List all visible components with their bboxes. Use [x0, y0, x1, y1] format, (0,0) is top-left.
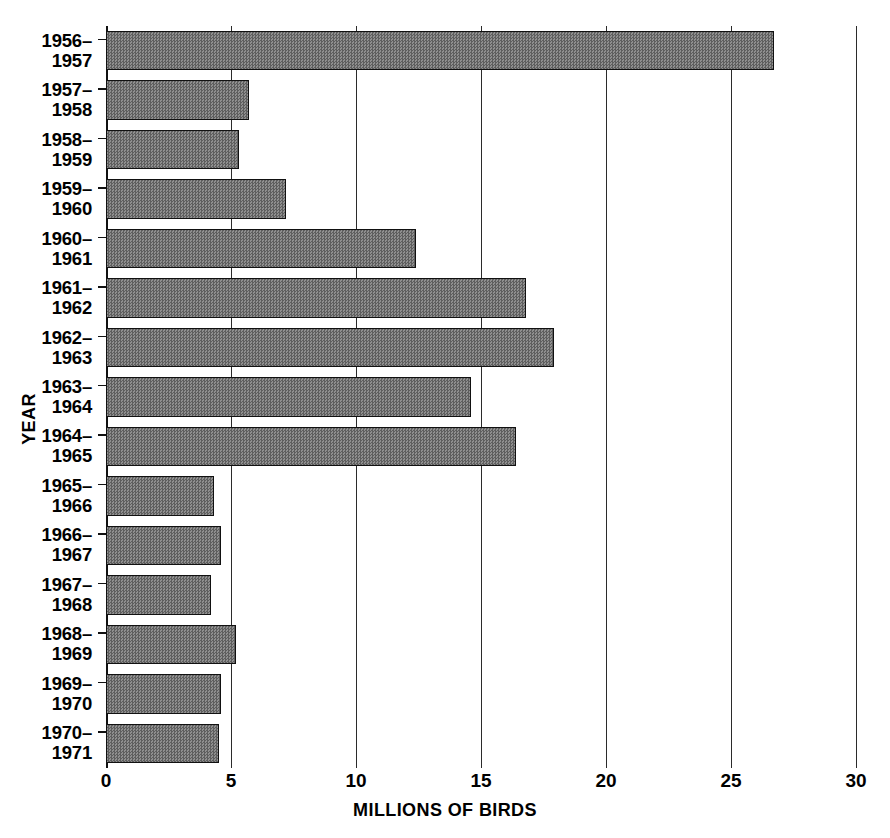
x-tick-label-20: 20	[595, 770, 616, 792]
y-label-1969-1970: 1969–1970	[0, 674, 92, 714]
gridline-30	[856, 26, 857, 768]
bar-1962-1963	[106, 328, 554, 367]
bar-row	[106, 323, 856, 372]
y-tick-mark	[98, 731, 106, 733]
bar-row	[106, 174, 856, 223]
x-axis-title: MILLIONS OF BIRDS	[0, 800, 890, 821]
y-label-1967-1968: 1967–1968	[0, 575, 92, 615]
y-tick-mark	[98, 632, 106, 634]
bar-1959-1960	[106, 179, 286, 218]
bar-row	[106, 719, 856, 768]
y-label-1959-1960: 1959–1960	[0, 179, 92, 219]
y-label-1965-1966: 1965–1966	[0, 476, 92, 516]
y-tick-mark	[98, 484, 106, 486]
y-tick-mark	[98, 336, 106, 338]
x-tick-label-10: 10	[345, 770, 366, 792]
bar-1967-1968	[106, 575, 211, 614]
y-tick-mark	[98, 682, 106, 684]
bar-row	[106, 471, 856, 520]
y-tick-mark	[98, 237, 106, 239]
y-tick-mark	[98, 138, 106, 140]
x-tick-label-30: 30	[845, 770, 866, 792]
bar-row	[106, 669, 856, 718]
bar-1957-1958	[106, 80, 249, 119]
y-tick-mark	[98, 385, 106, 387]
bar-1958-1959	[106, 130, 239, 169]
bar-row	[106, 570, 856, 619]
y-label-1964-1965: 1964–1965	[0, 426, 92, 466]
x-tick-label-25: 25	[720, 770, 741, 792]
y-axis-tick-labels: 1956–19571957–19581958–19591959–19601960…	[0, 26, 100, 768]
x-tick-label-0: 0	[101, 770, 112, 792]
y-label-1968-1969: 1968–1969	[0, 624, 92, 664]
bar-row	[106, 422, 856, 471]
x-tick-label-5: 5	[226, 770, 237, 792]
plot-area	[106, 26, 856, 768]
bar-1956-1957	[106, 31, 774, 70]
y-tick-mark	[98, 583, 106, 585]
bar-row	[106, 273, 856, 322]
y-label-1956-1957: 1956–1957	[0, 31, 92, 71]
bar-1961-1962	[106, 278, 526, 317]
y-label-1958-1959: 1958–1959	[0, 130, 92, 170]
bar-1960-1961	[106, 229, 416, 268]
bar-row	[106, 125, 856, 174]
bar-chart: YEAR 1956–19571957–19581958–19591959–196…	[0, 0, 890, 838]
y-tick-mark	[98, 187, 106, 189]
bar-1966-1967	[106, 526, 221, 565]
bar-1968-1969	[106, 625, 236, 664]
y-tick-mark	[98, 434, 106, 436]
bar-row	[106, 521, 856, 570]
bar-row	[106, 620, 856, 669]
bar-rows	[106, 26, 856, 768]
y-label-1963-1964: 1963–1964	[0, 377, 92, 417]
y-label-1961-1962: 1961–1962	[0, 278, 92, 318]
bar-row	[106, 26, 856, 75]
x-tick-label-15: 15	[470, 770, 491, 792]
y-tick-mark	[98, 533, 106, 535]
y-label-1970-1971: 1970–1971	[0, 723, 92, 763]
x-axis-tick-labels: 051015202530	[0, 770, 890, 800]
bar-row	[106, 224, 856, 273]
bar-row	[106, 75, 856, 124]
y-label-1960-1961: 1960–1961	[0, 229, 92, 269]
bar-1963-1964	[106, 377, 471, 416]
y-label-1957-1958: 1957–1958	[0, 80, 92, 120]
bar-1970-1971	[106, 724, 219, 763]
bar-1964-1965	[106, 427, 516, 466]
y-label-1966-1967: 1966–1967	[0, 525, 92, 565]
bar-row	[106, 372, 856, 421]
bar-1965-1966	[106, 476, 214, 515]
y-tick-mark	[98, 88, 106, 90]
y-label-1962-1963: 1962–1963	[0, 328, 92, 368]
bar-1969-1970	[106, 674, 221, 713]
y-tick-mark	[98, 286, 106, 288]
y-tick-mark	[98, 39, 106, 41]
